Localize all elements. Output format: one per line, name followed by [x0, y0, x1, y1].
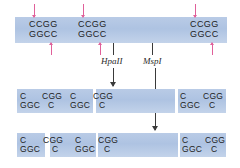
hpaII-fragment-6-bottom: C — [209, 101, 215, 110]
top-duplex-site-3-bottom: GGCC — [190, 30, 219, 40]
cut-arrow-top-3 — [193, 4, 198, 17]
restriction-digest-figure: CCGG GGCC CCGG GGCC CCGG GGCC HpaII MspI… — [0, 0, 240, 168]
hpaII-fragment-3-bottom: GGC — [70, 101, 90, 110]
mspI-fragment-2-bottom: C — [52, 145, 58, 154]
hpaII-arrow — [110, 68, 117, 86]
hpaII-label: HpaII — [101, 56, 123, 66]
hpaII-fragment-1-bottom: GGC — [20, 101, 40, 110]
hpaII-fragment-5-bottom: GGC — [180, 101, 200, 110]
top-duplex-site-2-bottom: GGCC — [78, 30, 107, 40]
mspI-arrow — [152, 112, 159, 130]
cut-arrow-top-2 — [81, 4, 86, 17]
mspI-label: MspI — [143, 56, 162, 66]
mspI-fragment-6-bottom: C — [211, 145, 217, 154]
mspI-fragment-1-bottom: GGC — [20, 145, 40, 154]
hpaII-fragment-4-bottom: C — [99, 101, 105, 110]
mspI-fragment-3-bottom: GGC — [75, 145, 95, 154]
hpaII-fragment-2-bottom: C — [48, 101, 54, 110]
cut-arrow-top-1 — [32, 4, 37, 17]
cut-arrow-bottom-1 — [49, 43, 54, 55]
mspI-fragment-5-bottom: GGC — [182, 145, 202, 154]
mspI-connector-upper — [152, 43, 153, 55]
cut-arrow-bottom-3 — [210, 43, 215, 55]
hpaII-connector-upper — [113, 43, 114, 55]
mspI-fragment-4-bottom: C — [104, 145, 110, 154]
cut-arrow-bottom-2 — [98, 43, 103, 55]
top-duplex-site-1-bottom: GGCC — [29, 30, 58, 40]
